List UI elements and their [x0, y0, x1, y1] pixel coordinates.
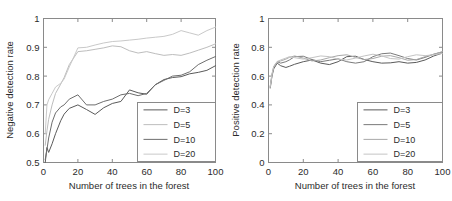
right-x-tick-100: 100 [435, 166, 451, 177]
right-y-axis-title: Positive detection rate [230, 43, 241, 136]
left-chart-svg: 020406080100 0.50.60.70.80.91 Number of … [0, 0, 226, 201]
left-legend-label-D-5: D=5 [174, 120, 191, 130]
right-x-tick-0: 0 [266, 166, 271, 177]
left-y-axis-title: Negative detection rate [4, 41, 15, 139]
right-y-tick-0: 0 [259, 157, 264, 168]
left-legend-label-D-3: D=3 [174, 105, 191, 115]
right-series-curves [270, 52, 442, 89]
right-legend[interactable]: D=3D=5D=10D=20 [358, 103, 443, 162]
right-curve-D-20 [270, 53, 442, 86]
left-legend[interactable]: D=3D=5D=10D=20 [138, 103, 216, 162]
left-x-tick-100: 100 [208, 166, 224, 177]
right-legend-label-D-3: D=3 [394, 105, 411, 115]
right-legend-label-D-10: D=10 [394, 135, 416, 145]
left-x-tick-60: 60 [141, 166, 152, 177]
left-y-tick-0.5: 0.5 [26, 157, 39, 168]
right-x-tick-60: 60 [368, 166, 379, 177]
right-x-tick-80: 80 [402, 166, 413, 177]
left-legend-label-D-20: D=20 [174, 149, 196, 159]
left-y-tick-0.8: 0.8 [26, 71, 39, 82]
figure-two-panel-line-charts: 020406080100 0.50.60.70.80.91 Number of … [0, 0, 452, 201]
right-y-tick-labels: 00.20.40.60.81 [251, 13, 264, 168]
left-x-axis-title: Number of trees in the forest [69, 180, 190, 191]
left-x-tick-labels: 020406080100 [41, 166, 224, 177]
right-y-tick-0.4: 0.4 [251, 99, 264, 110]
left-legend-label-D-10: D=10 [174, 135, 196, 145]
left-x-tick-40: 40 [107, 166, 118, 177]
left-y-tick-0.7: 0.7 [26, 99, 39, 110]
right-y-tick-1: 1 [259, 13, 264, 24]
right-legend-label-D-20: D=20 [394, 149, 416, 159]
left-y-tick-1: 1 [34, 13, 39, 24]
left-y-tick-0.6: 0.6 [26, 128, 39, 139]
chart-panel-positive-detection-rate: 020406080100 00.20.40.60.81 Number of tr… [226, 0, 452, 201]
right-x-tick-40: 40 [333, 166, 344, 177]
right-curve-D-10 [270, 52, 442, 89]
chart-panel-negative-detection-rate: 020406080100 0.50.60.70.80.91 Number of … [0, 0, 226, 201]
left-y-tick-labels: 0.50.60.70.80.91 [26, 13, 39, 168]
left-x-tick-0: 0 [41, 166, 46, 177]
right-chart-svg: 020406080100 00.20.40.60.81 Number of tr… [226, 0, 452, 201]
left-x-tick-20: 20 [73, 166, 84, 177]
right-y-tick-0.8: 0.8 [251, 42, 264, 53]
right-y-tick-0.6: 0.6 [251, 71, 264, 82]
left-y-tick-0.9: 0.9 [26, 42, 39, 53]
right-x-tick-20: 20 [298, 166, 309, 177]
right-y-tick-0.2: 0.2 [251, 128, 264, 139]
left-x-tick-80: 80 [176, 166, 187, 177]
right-legend-label-D-5: D=5 [394, 120, 411, 130]
right-x-axis-title: Number of trees in the forest [295, 180, 416, 191]
right-x-tick-labels: 020406080100 [266, 166, 451, 177]
